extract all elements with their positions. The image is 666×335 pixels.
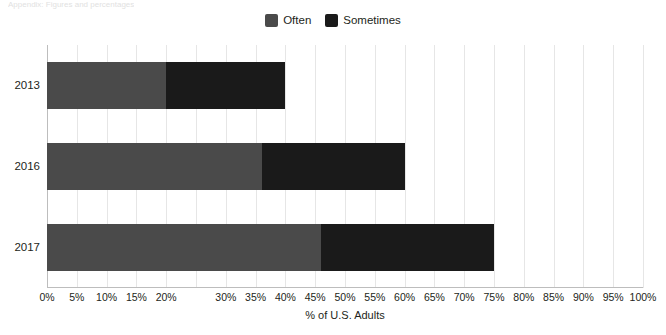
bar-segment-2017-sometimes[interactable] bbox=[321, 224, 494, 271]
bar-segment-2016-sometimes[interactable] bbox=[262, 143, 405, 190]
bar-series-container bbox=[47, 45, 643, 288]
y-axis-label-2013: 2013 bbox=[14, 62, 40, 109]
x-axis-title: % of U.S. Adults bbox=[47, 309, 643, 321]
x-tick-55: 55% bbox=[364, 290, 385, 304]
legend-label-often: Often bbox=[283, 14, 311, 27]
x-tick-45: 45% bbox=[305, 290, 326, 304]
x-tick-75: 75% bbox=[483, 290, 504, 304]
bar-segment-2013-often[interactable] bbox=[47, 62, 166, 109]
bar-row-2016[interactable] bbox=[47, 143, 405, 190]
y-axis-label-2016: 2016 bbox=[14, 143, 40, 190]
x-tick-85: 85% bbox=[543, 290, 564, 304]
x-tick-20: 20% bbox=[156, 290, 177, 304]
x-tick-0: 0% bbox=[39, 290, 54, 304]
bar-segment-2013-sometimes[interactable] bbox=[166, 62, 285, 109]
x-tick-65: 65% bbox=[424, 290, 445, 304]
x-tick-35: 35% bbox=[245, 290, 266, 304]
gridline-100 bbox=[643, 45, 644, 288]
legend-swatch-sometimes bbox=[325, 14, 338, 27]
x-tick-60: 60% bbox=[394, 290, 415, 304]
x-axis-tick-labels: 0%5%10%15%20%30%35%40%45%50%55%60%65%70%… bbox=[47, 290, 643, 304]
legend-label-sometimes: Sometimes bbox=[343, 14, 401, 27]
top-note: Appendix: Figures and percentages bbox=[8, 0, 134, 9]
x-tick-70: 70% bbox=[454, 290, 475, 304]
y-axis-label-2017: 2017 bbox=[14, 224, 40, 271]
legend-item-sometimes[interactable]: Sometimes bbox=[325, 14, 401, 27]
plot-area bbox=[47, 45, 643, 288]
x-tick-15: 15% bbox=[126, 290, 147, 304]
y-axis-category-labels: 201320162017 bbox=[0, 45, 40, 288]
bar-segment-2016-often[interactable] bbox=[47, 143, 262, 190]
bar-row-2017[interactable] bbox=[47, 224, 494, 271]
x-tick-5: 5% bbox=[69, 290, 84, 304]
x-tick-95: 95% bbox=[603, 290, 624, 304]
legend-item-often[interactable]: Often bbox=[265, 14, 311, 27]
x-tick-40: 40% bbox=[275, 290, 296, 304]
legend-swatch-often bbox=[265, 14, 278, 27]
x-tick-10: 10% bbox=[96, 290, 117, 304]
x-tick-50: 50% bbox=[334, 290, 355, 304]
x-tick-80: 80% bbox=[513, 290, 534, 304]
x-axis-line bbox=[47, 287, 643, 288]
bar-row-2013[interactable] bbox=[47, 62, 285, 109]
x-tick-90: 90% bbox=[573, 290, 594, 304]
x-tick-100: 100% bbox=[630, 290, 657, 304]
x-tick-30: 30% bbox=[215, 290, 236, 304]
bar-segment-2017-often[interactable] bbox=[47, 224, 321, 271]
chart-legend: OftenSometimes bbox=[0, 14, 666, 27]
